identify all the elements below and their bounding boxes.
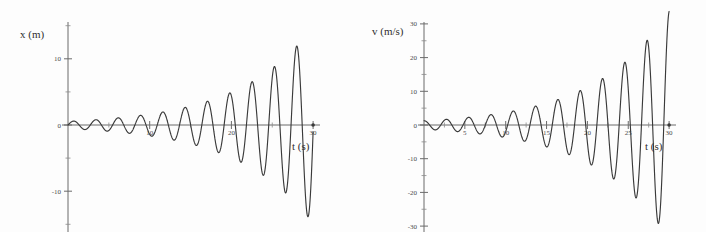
x-tick-label: 20 <box>584 129 592 137</box>
y-tick-label: 10 <box>410 88 418 96</box>
x-axis-title: t (s) <box>292 140 310 153</box>
chart-panel-velocity: 510152025303020100-10-20-30t (s)v (m/s) <box>353 0 706 232</box>
velocity-vs-time-chart: 510152025303020100-10-20-30t (s)v (m/s) <box>353 0 706 232</box>
x-tick-label: 30 <box>666 129 674 137</box>
y-tick-label: -30 <box>408 223 418 231</box>
x-tick-label: 15 <box>543 129 551 137</box>
x-tick-label: 5 <box>463 129 467 137</box>
y-axis-title: v (m/s) <box>372 25 404 38</box>
data-curve <box>68 46 313 217</box>
y-axis-ticks: 100-10 <box>52 26 72 225</box>
y-tick-label: 0 <box>414 122 418 130</box>
data-curve <box>424 11 669 223</box>
y-axis-ticks: 3020100-10-20-30 <box>408 20 428 230</box>
y-tick-label: 20 <box>410 54 418 62</box>
x-tick-label: 20 <box>228 129 236 137</box>
chart-panel-position: 102030100-10t (s)x (m) <box>0 0 353 232</box>
x-axis-ticks: 51015202530 <box>444 121 673 137</box>
figure-container: 102030100-10t (s)x (m) 51015202530302010… <box>0 0 706 232</box>
y-tick-label: -20 <box>408 189 418 197</box>
position-vs-time-chart: 102030100-10t (s)x (m) <box>0 0 353 232</box>
y-tick-label: 10 <box>54 55 62 63</box>
x-axis-title: t (s) <box>645 140 663 153</box>
y-tick-label: -10 <box>52 188 62 196</box>
axis-end-marker <box>311 123 315 127</box>
axis-end-marker <box>667 123 671 127</box>
y-tick-label: 30 <box>410 20 418 28</box>
y-axis-title: x (m) <box>20 28 44 41</box>
y-tick-label: 0 <box>58 122 62 130</box>
y-tick-label: -10 <box>408 155 418 163</box>
